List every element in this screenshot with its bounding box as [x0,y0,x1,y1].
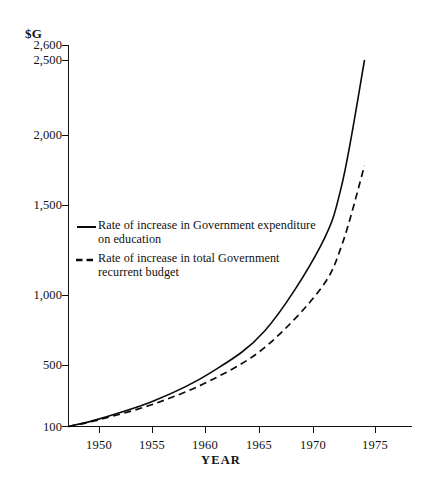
chart-plot-area [0,0,434,482]
series-line-expenditure [69,61,365,427]
series-line-recurrent-budget [69,166,365,427]
chart-figure: $G 2,600 2,500 2,000 1,500 1,000 500 100… [0,0,434,482]
